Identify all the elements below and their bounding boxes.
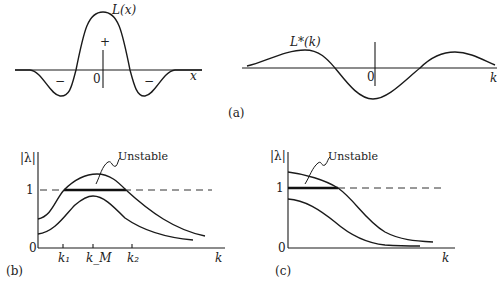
lower-curve — [288, 199, 420, 246]
y-axis-label: |λ| — [270, 149, 286, 163]
y-tick-one: 1 — [276, 181, 284, 195]
curve-label-L-star-k: L*(k) — [289, 35, 321, 49]
minus-sign-right: − — [144, 74, 154, 88]
tick-label-kM: k_M — [86, 251, 112, 265]
y-tick-one: 1 — [26, 183, 34, 197]
unstable-pointer — [305, 157, 330, 184]
panel-a-left: L(x) + − − 0 x — [15, 3, 202, 96]
unstable-pointer — [96, 158, 120, 184]
figure: L(x) + − − 0 x (a) L*(k) 0 k Unstable |λ… — [0, 0, 497, 293]
tick-label-k2: k₂ — [127, 251, 139, 265]
upper-curve — [38, 174, 205, 236]
panel-b: Unstable |λ| 1 0 k₁ k_M k₂ k (b) — [6, 150, 225, 278]
x-axis-label: x — [190, 69, 197, 83]
panel-label-a: (a) — [228, 106, 245, 120]
upper-curve — [288, 172, 433, 242]
k-axis-label: k — [490, 71, 497, 85]
minus-sign-left: − — [55, 74, 65, 88]
y-axis-label: |λ| — [20, 151, 36, 165]
panel-label-b: (b) — [6, 264, 23, 278]
unstable-label: Unstable — [328, 150, 378, 163]
origin-label: 0 — [367, 70, 375, 84]
lower-curve — [38, 196, 193, 240]
unstable-label: Unstable — [118, 150, 168, 163]
tick-label-k1: k₁ — [58, 251, 70, 265]
panel-label-c: (c) — [275, 264, 291, 278]
curve-label-L-x: L(x) — [111, 3, 136, 17]
curve-L-x — [15, 12, 202, 96]
plus-sign: + — [100, 35, 110, 49]
x-axis-label: k — [442, 251, 449, 265]
y-tick-zero: 0 — [29, 241, 37, 255]
panel-a-right: L*(k) 0 k — [242, 35, 497, 99]
x-axis-label: k — [215, 251, 222, 265]
panel-c: Unstable |λ| 1 0 k (c) — [270, 149, 455, 278]
y-tick-zero: 0 — [278, 241, 286, 255]
origin-label: 0 — [93, 72, 101, 86]
